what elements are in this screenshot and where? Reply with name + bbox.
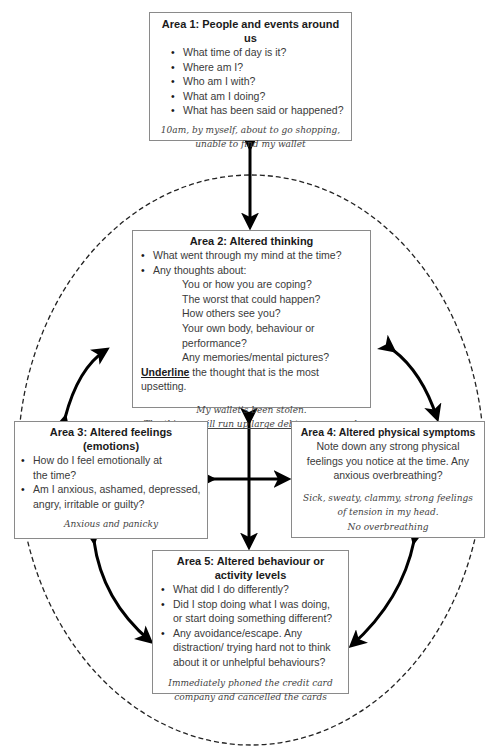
area4-title: Area 4: Altered physical symptoms (296, 425, 480, 439)
list-item: Where am I? (183, 60, 345, 75)
area2-sub-question: Your own body, behaviour or performance? (139, 321, 364, 350)
area5-title-line1: Area 5: Altered behaviour or (159, 554, 342, 568)
area3-title-line2: (emotions) (21, 439, 201, 453)
arrow-area4-area5 (352, 541, 414, 645)
list-item: What time of day is it? (183, 45, 345, 60)
area4-box: Area 4: Altered physical symptoms Note d… (291, 421, 485, 538)
area5-title-line2: activity levels (159, 568, 342, 582)
area1-questions: What time of day is it? Where am I? Who … (156, 45, 345, 118)
list-item: What did I do differently? (173, 582, 342, 597)
area2-instruction: Underline the thought that is the most u… (139, 365, 364, 394)
area3-answer: Anxious and panicky (21, 517, 201, 532)
area2-box: Area 2: Altered thinking What went throu… (132, 230, 371, 408)
area4-answer-line1: Sick, sweaty, clammy, strong feelings of… (296, 491, 480, 520)
area3-box: Area 3: Altered feelings (emotions) How … (14, 421, 208, 539)
area2-sub-question: How others see you? (139, 306, 364, 321)
area4-prompt: Note down any strong physical feelings y… (296, 439, 480, 483)
underline-word: Underline (141, 366, 189, 378)
list-item: Who am I with? (183, 74, 345, 89)
list-item: How do I feel emotionally at the time? (33, 453, 201, 482)
area2-answer-line1: My wallet's been stolen. (139, 403, 364, 418)
area2-title: Area 2: Altered thinking (139, 234, 364, 248)
area3-questions: How do I feel emotionally at the time? A… (21, 453, 201, 511)
arrow-area2-area3 (65, 350, 106, 418)
area1-box: Area 1: People and events around us What… (149, 12, 352, 141)
list-item: What am I doing? (183, 89, 345, 104)
area2-questions: What went through my mind at the time? A… (139, 248, 364, 277)
area5-answer: Immediately phoned the credit card compa… (159, 676, 342, 705)
list-item: What went through my mind at the time? (153, 248, 364, 263)
list-item: Did I stop doing what I was doing, or st… (173, 597, 342, 626)
area1-answer: 10am, by myself, about to go shopping, u… (156, 123, 345, 152)
list-item: What has been said or happened? (183, 103, 345, 118)
area5-box: Area 5: Altered behaviour or activity le… (152, 550, 349, 694)
list-item: Any thoughts about: (153, 263, 364, 278)
arrow-area3-area5 (94, 541, 150, 641)
list-item: Am I anxious, ashamed, depressed, angry,… (33, 482, 201, 511)
area1-title: Area 1: People and events around us (156, 17, 345, 45)
arrow-area2-area4 (393, 350, 437, 418)
area3-title-line1: Area 3: Altered feelings (21, 425, 201, 439)
area5-questions: What did I do differently? Did I stop do… (159, 582, 342, 670)
area4-answer-line2: No overbreathing (296, 520, 480, 535)
list-item: Any avoidance/escape. Any distraction/ t… (173, 626, 342, 670)
area2-sub-question: You or how you are coping? (139, 277, 364, 292)
area2-sub-question: The worst that could happen? (139, 292, 364, 307)
area2-sub-question: Any memories/mental pictures? (139, 350, 364, 365)
